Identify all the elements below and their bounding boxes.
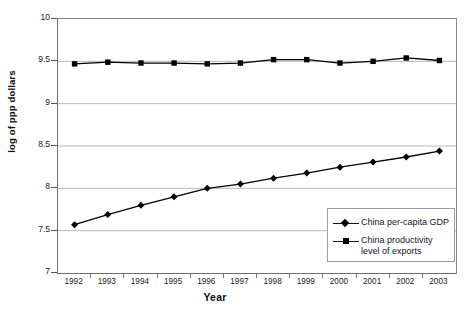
legend-item-productivity-level: China productivity level of exports <box>333 235 453 257</box>
y-axis-tick-mark <box>51 187 57 188</box>
y-axis-tick-mark <box>51 18 57 19</box>
y-axis-tick-label: 8.5 <box>6 140 50 149</box>
y-axis-tick-mark <box>51 60 57 61</box>
y-axis-tick-mark <box>51 103 57 104</box>
y-axis-tick-label: 8 <box>6 182 50 191</box>
data-point-diamond <box>237 181 244 188</box>
x-axis-tick-mark <box>422 273 423 278</box>
data-point-diamond <box>370 159 377 166</box>
x-axis-tick-mark <box>389 273 390 278</box>
data-point-square <box>105 59 110 64</box>
y-axis-tick-label: 9.5 <box>6 55 50 64</box>
data-point-diamond <box>336 164 343 171</box>
x-axis-tick-mark <box>322 273 323 278</box>
y-axis-tick-labels: 77.588.599.510 <box>0 0 50 313</box>
legend-key-square-icon <box>333 236 359 246</box>
x-axis-tick-mark <box>190 273 191 278</box>
data-point-square <box>205 61 210 66</box>
x-axis-tick-labels: 1992199319941995199619971998199920002001… <box>0 277 472 291</box>
data-point-diamond <box>71 221 78 228</box>
x-axis-title-text: Year <box>204 291 227 303</box>
chart-figure: log of ppp dollars 77.588.599.510 199219… <box>0 0 472 313</box>
data-point-square <box>337 60 342 65</box>
data-point-square <box>171 60 176 65</box>
x-axis-tick-mark <box>223 273 224 278</box>
legend-item-per-capita-gdp: China per-capita GDP <box>333 217 453 228</box>
data-point-diamond <box>303 170 310 177</box>
legend-label: China per-capita GDP <box>359 217 453 228</box>
x-axis-tick-mark <box>157 273 158 278</box>
data-point-square <box>304 57 309 62</box>
y-axis-tick-mark <box>51 272 57 273</box>
legend-key-diamond-icon <box>333 218 359 228</box>
x-axis-tick-mark <box>123 273 124 278</box>
data-point-square <box>271 57 276 62</box>
data-point-diamond <box>204 185 211 192</box>
chart-legend: China per-capita GDP China productivity … <box>327 208 455 262</box>
legend-label: China productivity level of exports <box>359 235 453 257</box>
data-point-diamond <box>436 148 443 155</box>
x-axis-tick-mark <box>90 273 91 278</box>
x-axis-tick-mark <box>289 273 290 278</box>
data-point-square <box>238 60 243 65</box>
data-point-square <box>72 61 77 66</box>
y-axis-tick-label: 9 <box>6 98 50 107</box>
data-point-diamond <box>171 193 178 200</box>
x-axis-title: Year <box>0 291 472 303</box>
chart-title-remnant <box>196 0 282 4</box>
y-axis-tick-label: 7.5 <box>6 225 50 234</box>
y-axis-tick-mark <box>51 230 57 231</box>
data-point-diamond <box>137 202 144 209</box>
x-axis-tick-label: 2003 <box>418 277 458 287</box>
data-point-square <box>138 60 143 65</box>
data-point-square <box>370 59 375 64</box>
y-axis-tick-mark <box>51 145 57 146</box>
x-axis-tick-mark <box>356 273 357 278</box>
data-point-square <box>437 58 442 63</box>
data-point-diamond <box>270 175 277 182</box>
data-point-square <box>404 55 409 60</box>
x-axis-tick-mark <box>256 273 257 278</box>
y-axis-tick-label: 7 <box>6 267 50 276</box>
data-point-diamond <box>104 211 111 218</box>
y-axis-tick-label: 10 <box>6 13 50 22</box>
data-point-diamond <box>403 154 410 161</box>
